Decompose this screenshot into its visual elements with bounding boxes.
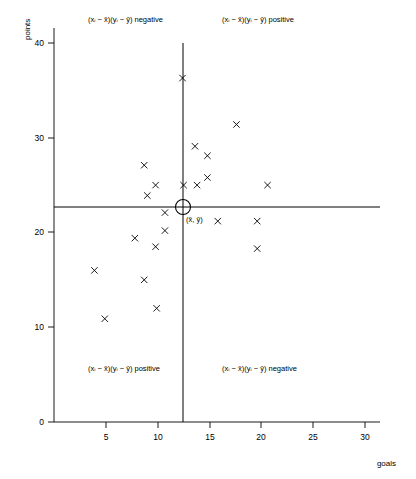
y-tick-label-20: 20 [35,227,45,237]
quadrant-label-top-right: (xᵢ − x̄)(yᵢ − ȳ) positive [222,15,294,24]
data-point-marker [152,244,158,250]
y-axis-title: points [23,19,32,40]
data-point-marker [162,209,168,215]
x-tick-label-5: 5 [104,432,109,442]
chart-canvas: 40 30 20 10 0 5 10 15 20 25 30 points go… [0,0,416,479]
data-point-marker [91,267,97,273]
x-tick-label-25: 25 [308,432,318,442]
x-axis-tick-labels: 5 10 15 20 25 30 [104,432,370,442]
data-point-marker [215,218,221,224]
data-point-marker [180,182,186,188]
y-axis-tick-labels: 40 30 20 10 0 [35,38,45,427]
data-point-marker [162,227,168,233]
y-tick-label-10: 10 [35,322,45,332]
data-point-marker [192,143,198,149]
data-point-marker [204,174,210,180]
data-point-marker [254,218,260,224]
data-point-marker [152,182,158,188]
data-point-marker [141,277,147,283]
data-point-marker [194,182,200,188]
x-tick-label-20: 20 [256,432,266,442]
quadrant-label-top-left: (xᵢ − x̄)(yᵢ − ȳ) negative [88,15,163,24]
data-point-marker [254,245,260,251]
quadrant-label-bottom-left: (xᵢ − x̄)(yᵢ − ȳ) positive [88,364,160,373]
y-tick-label-0: 0 [39,417,44,427]
data-point-group [91,75,271,322]
data-point-marker [102,316,108,322]
mean-point-label: (x̄, ȳ) [186,215,203,224]
quadrant-label-bottom-right: (xᵢ − x̄)(yᵢ − ȳ) negative [222,364,297,373]
data-point-marker [264,182,270,188]
x-tick-label-10: 10 [153,432,163,442]
x-axis-ticks [106,422,365,428]
x-axis-title: goals [377,459,396,468]
y-axis-ticks [48,43,54,422]
x-tick-label-15: 15 [205,432,215,442]
data-point-marker [233,121,239,127]
data-point-marker [144,192,150,198]
scatter-plot: 40 30 20 10 0 5 10 15 20 25 30 points go… [0,0,416,479]
data-point-marker [132,235,138,241]
data-point-marker [153,305,159,311]
data-point-marker [141,162,147,168]
x-tick-label-30: 30 [360,432,370,442]
y-tick-label-30: 30 [35,133,45,143]
data-point-marker [204,153,210,159]
y-tick-label-40: 40 [35,38,45,48]
